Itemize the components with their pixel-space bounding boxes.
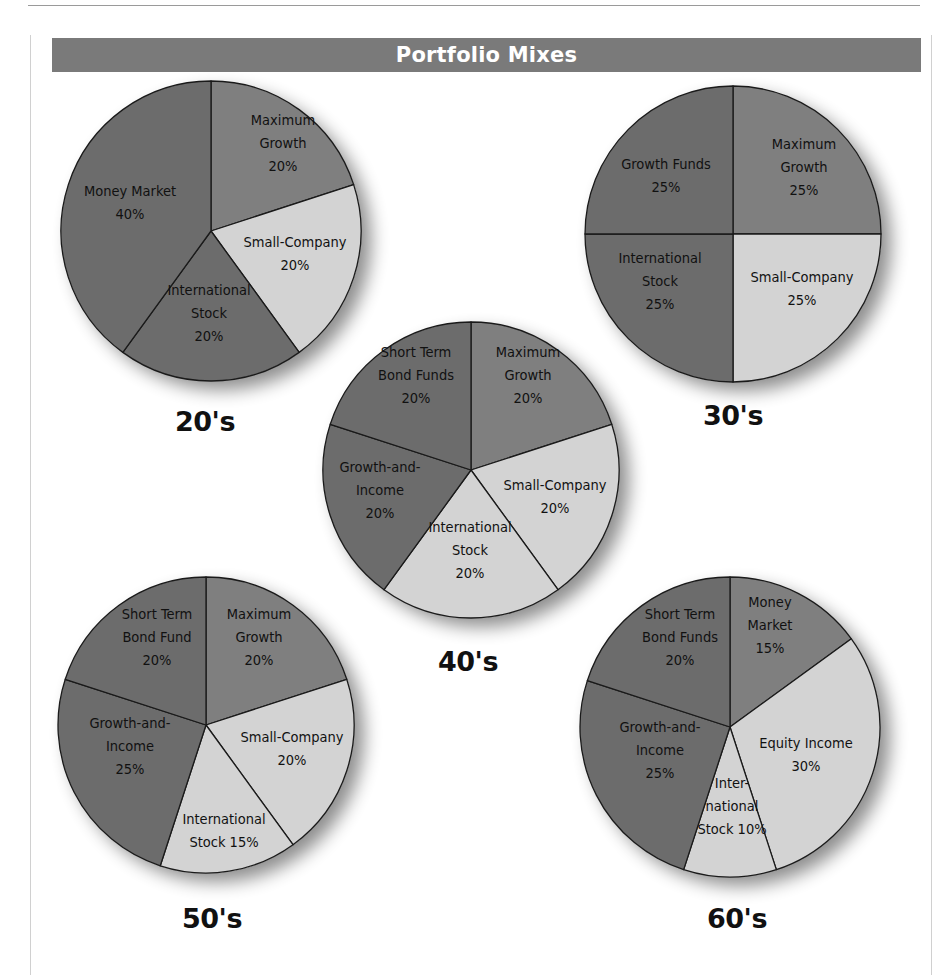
- decade-label-60-s: 60's: [707, 903, 767, 934]
- pie-chart-60-s: MoneyMarket15%Equity Income30%Inter-nati…: [580, 577, 880, 877]
- pie-chart-40-s: MaximumGrowth20%Small-Company20%Internat…: [323, 322, 619, 618]
- pie-chart-20-s: MaximumGrowth20%Small-Company20%Internat…: [61, 81, 361, 381]
- pie-chart-50-s: MaximumGrowth20%Small-Company20%Internat…: [58, 577, 354, 873]
- pie-slice-small-company: [733, 234, 881, 382]
- decade-label-30-s: 30's: [703, 400, 763, 431]
- pie-chart-30-s: MaximumGrowth25%Small-Company25%Internat…: [585, 86, 881, 382]
- decade-label-40-s: 40's: [438, 646, 498, 677]
- decade-label-50-s: 50's: [182, 903, 242, 934]
- decade-label-20-s: 20's: [175, 406, 235, 437]
